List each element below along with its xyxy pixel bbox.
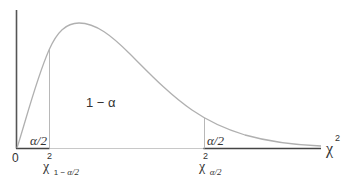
x-axis-superscript: 2: [335, 134, 340, 143]
right-tail-area-text: α/2: [207, 133, 224, 148]
right-critical-subscript: α/2: [210, 168, 222, 177]
right-critical-subscript-text: α/2: [210, 167, 222, 177]
origin-label: 0: [12, 152, 19, 164]
density-curve: [17, 23, 321, 148]
x-axis-label: χ 2: [326, 141, 333, 157]
right-critical-superscript: 2: [203, 152, 208, 161]
left-tail-area-text: α/2: [30, 133, 47, 148]
right-critical-chi-symbol: χ 2: [199, 159, 209, 174]
left-critical-subscript-prefix: 1 −: [54, 168, 68, 177]
left-critical-value-label: χ 2 1 − α/2: [43, 158, 79, 174]
left-tail-area-label: α/2: [30, 134, 47, 147]
chi-square-density-plot: [0, 0, 354, 178]
center-area-label: 1 − α: [86, 96, 116, 109]
right-tail-area-label: α/2: [207, 134, 224, 147]
left-critical-chi-symbol: χ 2: [43, 159, 53, 174]
x-axis-chi-symbol: χ 2: [326, 140, 333, 157]
left-critical-superscript: 2: [47, 152, 52, 161]
right-critical-value-label: χ 2 α/2: [199, 158, 221, 174]
x-axis-chi-text: χ: [326, 140, 333, 157]
left-critical-subscript: 1 − α/2: [54, 168, 79, 177]
chi-square-distribution-figure: 1 − α α/2 α/2 0 χ 2 1 − α/2 χ 2 α/2 χ 2: [0, 0, 354, 178]
right-critical-chi-text: χ: [199, 159, 205, 174]
origin-text: 0: [12, 151, 19, 165]
center-area-text: 1 − α: [86, 95, 116, 110]
left-critical-chi-text: χ: [43, 159, 49, 174]
left-critical-subscript-alpha: α/2: [67, 167, 79, 177]
